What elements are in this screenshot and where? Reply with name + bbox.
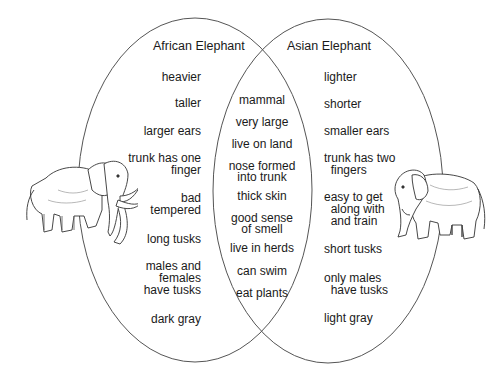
- asian-item: short tusks: [324, 243, 382, 255]
- african-item: males and females have tusks: [144, 260, 201, 296]
- african-item: larger ears: [144, 125, 201, 137]
- asian-item: shorter: [324, 98, 361, 110]
- shared-item: can swim: [219, 265, 305, 277]
- african-item: bad tempered: [150, 192, 201, 216]
- shared-item: thick skin: [219, 190, 305, 202]
- shared-item: very large: [219, 116, 305, 128]
- african-item: dark gray: [151, 313, 201, 325]
- african-item: trunk has one finger: [128, 152, 201, 176]
- shared-item: eat plants: [219, 287, 305, 299]
- african-item: long tusks: [147, 233, 201, 245]
- shared-item: live on land: [219, 138, 305, 150]
- venn-diagram: African Elephant Asian Elephant heavier …: [0, 0, 493, 381]
- asian-elephant-illustration: [390, 165, 490, 260]
- asian-item: only males have tusks: [324, 272, 388, 296]
- shared-item: nose formed into trunk: [219, 161, 305, 183]
- shared-item: live in herds: [219, 242, 305, 254]
- african-item: taller: [175, 97, 201, 109]
- african-elephant-illustration: [18, 150, 138, 262]
- shared-item: mammal: [219, 94, 305, 106]
- african-elephant-title: African Elephant: [153, 40, 245, 52]
- asian-elephant-title: Asian Elephant: [287, 40, 371, 52]
- asian-item: trunk has two fingers: [324, 152, 395, 176]
- african-item: heavier: [162, 71, 201, 83]
- asian-item: lighter: [324, 71, 357, 83]
- shared-item: good sense of smell: [219, 213, 305, 235]
- asian-item: easy to get along with and train: [324, 191, 385, 227]
- asian-item: smaller ears: [324, 125, 389, 137]
- asian-item: light gray: [324, 312, 373, 324]
